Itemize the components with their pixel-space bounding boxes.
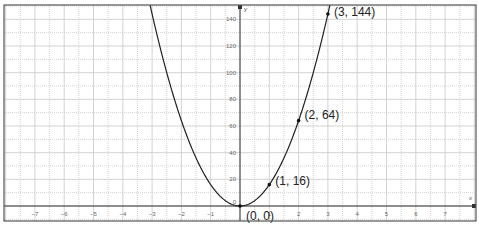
y-tick-label: 120 <box>226 43 237 49</box>
x-tick-label: 6 <box>414 211 418 217</box>
x-tick-label: 4 <box>356 211 360 217</box>
x-tick-label: −6 <box>61 211 69 217</box>
x-tick-label: −5 <box>90 211 98 217</box>
x-tick-label: 7 <box>443 211 447 217</box>
parabola-chart: xy −7−6−5−4−3−2−112345672040608010012014… <box>0 0 479 226</box>
y-tick-label: 100 <box>226 70 237 76</box>
x-tick-label: −7 <box>31 211 39 217</box>
y-axis-label: y <box>243 6 248 12</box>
data-point-label: (3, 144) <box>334 5 375 19</box>
data-point-marker <box>297 119 301 123</box>
data-point-label: (2, 64) <box>305 108 340 122</box>
x-tick-label: −4 <box>119 211 127 217</box>
y-tick-label: 60 <box>229 123 236 129</box>
x-tick-label: 2 <box>297 211 301 217</box>
y-tick-label: 140 <box>226 16 237 22</box>
x-tick-label: −1 <box>207 211 215 217</box>
y-tick-label: 20 <box>229 176 236 182</box>
data-point-marker <box>268 183 272 187</box>
x-tick-label: 5 <box>385 211 389 217</box>
data-point-marker <box>326 12 330 16</box>
y-tick-label: 80 <box>229 96 236 102</box>
x-tick-label: −3 <box>149 211 157 217</box>
x-tick-label: −2 <box>178 211 186 217</box>
y-tick-label: 40 <box>229 150 236 156</box>
labeled-points: (0, 0)(1, 16)(2, 64)(3, 144) <box>238 5 375 223</box>
data-point-marker <box>238 204 242 208</box>
x-tick-label: 3 <box>326 211 330 217</box>
data-point-label: (1, 16) <box>275 174 310 188</box>
x-axis-label: x <box>468 195 473 201</box>
origin-label: 0 <box>233 199 237 205</box>
